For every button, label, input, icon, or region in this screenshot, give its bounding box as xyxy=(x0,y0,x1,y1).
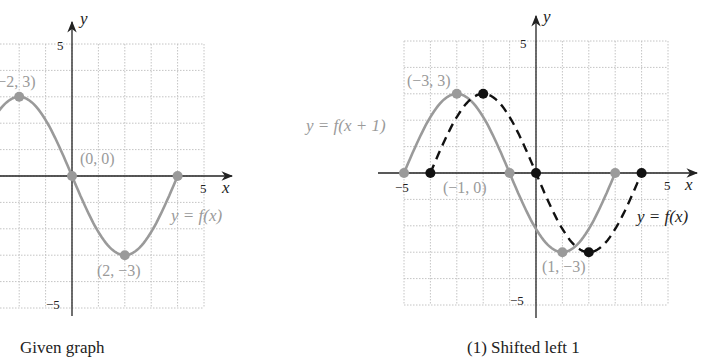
data-point xyxy=(452,89,462,99)
tick-x-5: 5 xyxy=(664,178,671,193)
data-point xyxy=(505,168,515,178)
data-point xyxy=(557,247,567,257)
data-point xyxy=(637,168,647,178)
figure: y x 5 5 −5 (−2, 3) (0, 0) (2, −3) y = f(… xyxy=(0,0,712,362)
data-point xyxy=(173,171,183,181)
y-axis-label: y xyxy=(78,9,88,28)
data-point xyxy=(399,168,409,178)
tick-y-5: 5 xyxy=(57,38,64,53)
tick-y-neg5: −5 xyxy=(46,297,60,312)
data-point xyxy=(14,92,24,102)
y-axis-label: y xyxy=(541,7,551,26)
right-panel: y x 5 −5 5 −5 (−3, 3) (−1, 0) (1, −3) y … xyxy=(304,7,697,318)
point-label-min: (2, −3) xyxy=(97,262,141,280)
x-axis-label: x xyxy=(221,178,230,197)
caption-shifted-left: (1) Shifted left 1 xyxy=(467,338,580,358)
curve-label: y = f(x) xyxy=(169,206,222,225)
tick-x-5: 5 xyxy=(200,181,207,196)
point-label-origin: (0, 0) xyxy=(80,150,115,168)
left-panel: y x 5 5 −5 (−2, 3) (0, 0) (2, −3) y = f(… xyxy=(0,9,232,316)
tick-y-neg5: −5 xyxy=(510,293,524,308)
tick-y-5: 5 xyxy=(520,36,527,51)
point-label-min: (1, −3) xyxy=(542,258,586,276)
point-label-max: (−3, 3) xyxy=(407,72,451,90)
data-point xyxy=(425,168,435,178)
original-curve-label: y = f(x) xyxy=(635,207,688,226)
data-point xyxy=(610,168,620,178)
data-point xyxy=(120,250,130,260)
shifted-curve-label: y = f(x + 1) xyxy=(304,116,386,135)
tick-x-neg5: −5 xyxy=(395,180,409,195)
data-point xyxy=(478,89,488,99)
x-axis-label: x xyxy=(684,175,693,194)
data-point xyxy=(67,171,77,181)
data-point xyxy=(531,168,541,178)
caption-given-graph: Given graph xyxy=(20,338,105,358)
point-label-max: (−2, 3) xyxy=(0,73,36,91)
data-point xyxy=(584,247,594,257)
point-label-zero: (−1, 0) xyxy=(443,179,487,197)
